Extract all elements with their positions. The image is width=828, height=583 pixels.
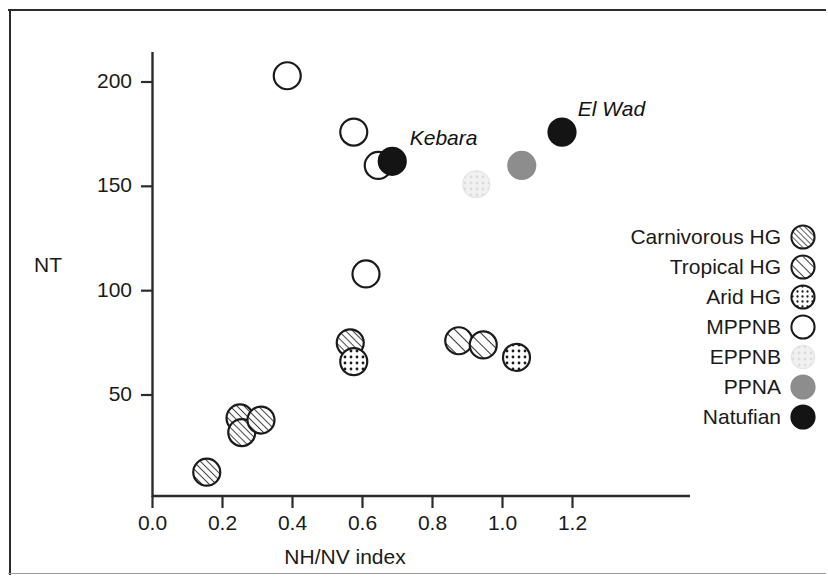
data-points-layer [193,62,575,485]
scatter-plot-figure: 50100150200 0.00.20.40.60.81.01.2 NT NH/… [0,0,828,583]
data-point [353,260,380,287]
data-point [193,459,220,486]
series-tropical-hg [445,327,497,358]
data-point [340,119,367,146]
series-ppna [508,152,535,179]
series-carnivorous-hg [193,329,364,485]
point-annotation-label: Kebara [410,126,478,150]
data-point [503,344,530,371]
legend-swatch-circle-dotted-icon [790,284,816,310]
y-axis-tick-label: 50 [40,382,132,406]
data-point [463,171,490,198]
legend-item-label: Arid HG [706,285,781,309]
y-axis-title: NT [34,253,62,277]
x-axis-title: NH/NV index [0,545,690,569]
legend-item-label: MPPNB [706,315,781,339]
legend-item-mppnb[interactable]: MPPNB [560,312,816,342]
legend-item-natufian[interactable]: Natufian [560,402,816,432]
data-point [508,152,535,179]
data-point [248,407,275,434]
data-point [470,331,497,358]
legend-swatch-circle-filled-black-icon [790,404,816,430]
series-arid-hg [340,344,530,375]
y-axis-tick-marks [141,82,153,395]
data-point [274,62,301,89]
y-axis-tick-label: 150 [40,173,132,197]
legend-item-ppna[interactable]: PPNA [560,372,816,402]
y-axis-tick-label: 200 [40,69,132,93]
data-point [340,348,367,375]
x-axis-tick-marks [153,496,573,508]
series-eppnb [463,171,490,198]
legend-swatch-circle-dotted-light-icon [790,344,816,370]
legend-item-eppnb[interactable]: EPPNB [560,342,816,372]
data-point [549,119,576,146]
data-point [379,148,406,175]
x-axis-tick-label: 1.2 [528,511,618,535]
legend-item-label: EPPNB [710,345,781,369]
legend-item-label: PPNA [724,375,781,399]
legend-swatch-circle-hatch-dense-icon [790,224,816,250]
y-axis-tick-label: 100 [40,278,132,302]
legend-swatch-circle-filled-gray-icon [790,374,816,400]
legend-item-carnivorous-hg[interactable]: Carnivorous HG [560,222,816,252]
legend-item-tropical-hg[interactable]: Tropical HG [560,252,816,282]
legend-item-label: Tropical HG [670,255,781,279]
legend-item-label: Carnivorous HG [630,225,781,249]
legend: Carnivorous HGTropical HGArid HGMPPNBEPP… [560,222,816,432]
legend-item-arid-hg[interactable]: Arid HG [560,282,816,312]
legend-item-label: Natufian [703,405,781,429]
legend-swatch-circle-open-icon [790,314,816,340]
data-point [445,327,472,354]
point-annotation-label: El Wad [578,97,645,121]
series-mppnb [274,62,392,287]
legend-swatch-circle-hatch-wide-icon [790,254,816,280]
